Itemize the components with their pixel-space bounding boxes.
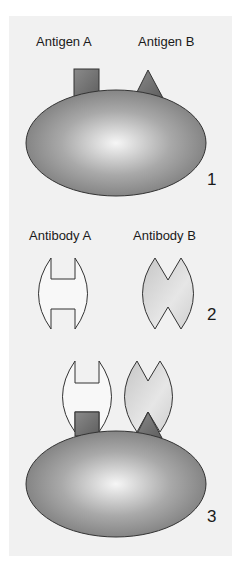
step-number-3: 3 bbox=[207, 507, 216, 527]
antibody-a-shape bbox=[39, 258, 88, 329]
antigen-antibody-diagram bbox=[0, 0, 242, 567]
cell-shape bbox=[26, 90, 206, 196]
antibody-a-label: Antibody A bbox=[29, 228, 91, 243]
step1-group bbox=[26, 69, 206, 196]
antibody-b-label: Antibody B bbox=[133, 228, 196, 243]
antibody-b-shape bbox=[143, 258, 194, 329]
antigen-a-label: Antigen A bbox=[36, 34, 92, 49]
step-number-1: 1 bbox=[207, 170, 216, 190]
antigen-b-label: Antigen B bbox=[138, 34, 194, 49]
step3-group bbox=[26, 361, 206, 537]
step-number-2: 2 bbox=[207, 305, 216, 325]
step2-group bbox=[39, 258, 194, 329]
bound-cell-shape bbox=[26, 431, 206, 537]
